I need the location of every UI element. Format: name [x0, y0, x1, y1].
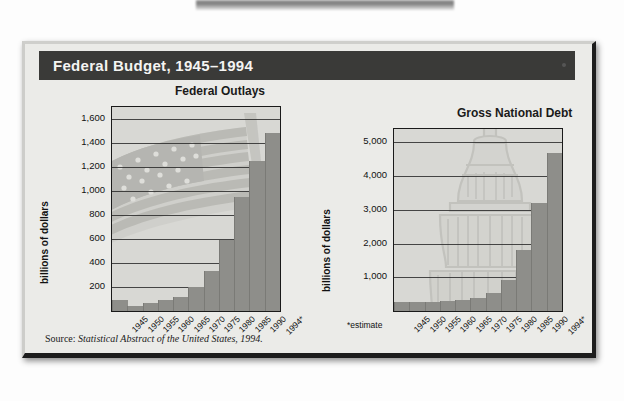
y-tick-label: 1,400: [33, 136, 105, 147]
figure-plate: Federal Budget, 1945–1994 Federal Outlay…: [22, 41, 596, 358]
bar: [188, 287, 204, 311]
bar: [394, 302, 410, 311]
estimate-footnote: *estimate: [347, 320, 382, 330]
bar: [158, 300, 174, 311]
bar: [547, 153, 563, 311]
bar: [127, 306, 143, 311]
figure-plate-inner: Federal Budget, 1945–1994 Federal Outlay…: [25, 44, 592, 353]
chart-right-title: Gross National Debt: [457, 106, 572, 120]
gridline: [394, 142, 562, 143]
bar: [531, 203, 547, 311]
y-tick-label: 400: [33, 256, 105, 267]
bar: [265, 133, 281, 311]
y-tick-label: 2,000: [313, 237, 387, 248]
bar: [486, 293, 502, 311]
bar: [173, 297, 189, 311]
page-title: Federal Budget, 1945–1994: [53, 57, 253, 74]
x-tick-label: 1994*: [284, 314, 307, 337]
bar: [143, 303, 159, 311]
bar: [455, 300, 471, 311]
figure-title-bar: Federal Budget, 1945–1994: [39, 51, 575, 80]
chart-left-plot-area: [111, 106, 281, 312]
y-tick-label: 800: [33, 208, 105, 219]
chart-right-plot-area: [393, 128, 563, 312]
bar: [234, 197, 250, 311]
y-tick-label: 1,600: [33, 112, 105, 123]
y-tick-label: 5,000: [313, 135, 387, 146]
source-line: Source: Statistical Abstract of the Unit…: [45, 333, 263, 344]
bar: [112, 300, 128, 311]
bar: [409, 302, 425, 311]
bar: [470, 298, 486, 311]
bar: [425, 302, 441, 311]
y-tick-label: 3,000: [313, 203, 387, 214]
y-tick-label: 600: [33, 232, 105, 243]
bar: [440, 301, 456, 311]
gridline: [112, 119, 280, 120]
y-tick-label: 1,000: [313, 270, 387, 281]
bar: [501, 280, 517, 311]
y-tick-label: 1,200: [33, 160, 105, 171]
bar: [219, 240, 235, 311]
gridline: [112, 143, 280, 144]
gridline: [394, 176, 562, 177]
y-tick-label: 1,000: [33, 184, 105, 195]
bar: [516, 250, 532, 311]
source-citation: Statistical Abstract of the United State…: [78, 333, 263, 344]
chart-left-title: Federal Outlays: [175, 84, 265, 98]
y-tick-label: 4,000: [313, 169, 387, 180]
x-tick-label: 1994*: [566, 314, 589, 337]
source-prefix: Source:: [45, 333, 78, 344]
y-tick-label: 200: [33, 280, 105, 291]
page-scan-strip: [196, 0, 454, 10]
bar: [249, 161, 265, 311]
bar: [204, 271, 220, 311]
title-bar-dot-icon: [562, 63, 566, 67]
